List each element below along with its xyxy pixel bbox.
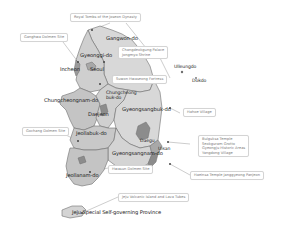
label-seoul: Seoul xyxy=(90,66,104,72)
callout-haeinsa[interactable]: Haeinsa Temple Janggyeong Panjeon xyxy=(190,171,264,180)
label-jeju: Jeju Special Self-governing Province xyxy=(72,209,161,215)
callout-text: Ganghwa Dolmen Site xyxy=(24,35,64,39)
label-ulleungdo: Ulleungdo xyxy=(174,64,196,69)
label-jeonbuk: Jeollabuk-do xyxy=(76,130,107,136)
callout-hwasun-dolmen[interactable]: Hwasun Dolmen Site xyxy=(108,165,153,174)
region-chungnam xyxy=(60,88,100,130)
callout-gyeongju[interactable]: Bulguksa Temple Seokguram Grotto Gyeongj… xyxy=(198,135,249,157)
callout-text: Hwasun Dolmen Site xyxy=(112,167,149,171)
label-gyeonggi: Gyeonggi-do xyxy=(80,52,112,58)
label-gangwon: Gangwon-do xyxy=(106,35,138,41)
label-chungbuk: Chungcheongbuk-do xyxy=(106,90,137,100)
label-incheon: Incheon xyxy=(60,66,80,72)
callout-text: Jeju Volcanic Island and Lava Tubes xyxy=(122,195,185,199)
callout-hwaseong[interactable]: Suwon Hwaseong Fortress xyxy=(112,75,167,84)
callout-text: Haeinsa Temple Janggyeong Panjeon xyxy=(194,173,260,177)
callout-royal-tombs[interactable]: Royal Tombs of the Joseon Dynasty xyxy=(70,13,141,22)
island-ulleungdo xyxy=(181,71,183,73)
callout-line: Changdeokgung Palace xyxy=(122,48,164,53)
region-jeonnam xyxy=(66,148,108,186)
callout-line: Jongmyo Shrine xyxy=(122,53,164,58)
label-dokdo: Dokdo xyxy=(192,78,206,83)
callout-ganghwa-dolmen[interactable]: Ganghwa Dolmen Site xyxy=(20,33,68,42)
callout-text: Suwon Hwaseong Fortress xyxy=(116,77,163,81)
label-daejeon: Daejeon xyxy=(88,111,109,117)
callout-text: Gochang Dolmen Site xyxy=(26,129,65,133)
callout-text: Royal Tombs of the Joseon Dynasty xyxy=(74,15,137,19)
callout-gochang-dolmen[interactable]: Gochang Dolmen Site xyxy=(22,127,69,136)
callout-changdeokgung[interactable]: Changdeokgung Palace Jongmyo Shrine xyxy=(118,46,168,59)
label-chungnam: Chungcheongnam-do xyxy=(44,97,98,103)
label-gyeongnam: Gyeongsangnam-do xyxy=(112,150,163,156)
label-jeonnam: Jeollanam-do xyxy=(66,172,99,178)
callout-text: Hahoe Village xyxy=(187,110,212,114)
callout-jeju-volcanic[interactable]: Jeju Volcanic Island and Lava Tubes xyxy=(118,193,189,202)
label-gyeongbuk: Gyeongsangbuk-do xyxy=(122,106,171,112)
callout-line: Yangdong Village xyxy=(202,151,245,156)
label-daegu: Daegu xyxy=(140,138,155,143)
callout-hahoe[interactable]: Hahoe Village xyxy=(183,108,216,117)
